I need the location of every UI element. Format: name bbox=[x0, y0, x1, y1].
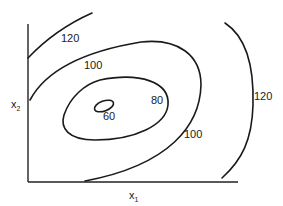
x-axis-label-sub: 1 bbox=[135, 196, 139, 203]
contour-label-80: 80 bbox=[151, 94, 163, 106]
contour-120-left bbox=[28, 13, 92, 58]
y-axis-label: x2 bbox=[11, 98, 21, 112]
contour-label-100-lower: 100 bbox=[184, 128, 202, 140]
y-axis-label-sub: 2 bbox=[17, 105, 21, 112]
contour-label-100-upper: 100 bbox=[84, 59, 102, 71]
x-axis-label: x1 bbox=[129, 189, 139, 203]
contour-80 bbox=[63, 77, 168, 140]
contour-120-right bbox=[222, 23, 253, 178]
contour-plot-canvas: 120 100 80 60 100 120 x2 x1 bbox=[0, 0, 283, 206]
contour-label-120-left: 120 bbox=[61, 32, 79, 44]
contour-plot: 120 100 80 60 100 120 x2 x1 bbox=[0, 0, 283, 206]
contour-100 bbox=[30, 41, 201, 181]
contour-label-120-right: 120 bbox=[254, 90, 272, 102]
contour-label-60: 60 bbox=[103, 110, 115, 122]
